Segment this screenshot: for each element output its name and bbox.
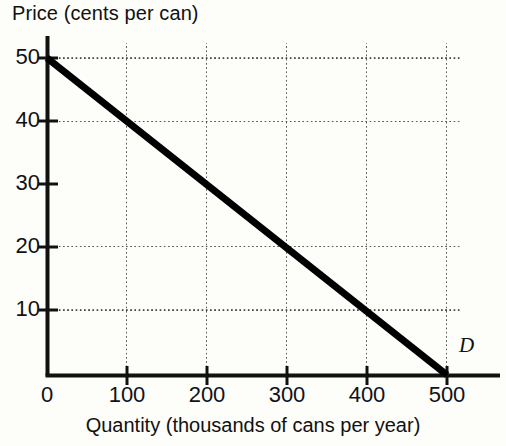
demand-curve-label: D — [459, 333, 474, 358]
xtick-label-100: 100 — [92, 382, 162, 408]
ytick-label-20: 20 — [0, 233, 40, 259]
ytick-label-50: 50 — [0, 44, 40, 70]
ytick-label-10: 10 — [0, 296, 40, 322]
xtick-label-500: 500 — [412, 382, 482, 408]
vertical-gridlines — [126, 43, 448, 375]
xtick-label-300: 300 — [252, 382, 322, 408]
demand-curve — [47, 58, 447, 375]
chart-figure: Price (cents per can) — [0, 0, 506, 446]
x-axis-title: Quantity (thousands of cans per year) — [0, 414, 506, 437]
xtick-label-400: 400 — [332, 382, 402, 408]
xtick-label-200: 200 — [172, 382, 242, 408]
ytick-label-40: 40 — [0, 107, 40, 133]
ytick-label-30: 30 — [0, 170, 40, 196]
plot-area — [0, 0, 506, 446]
horizontal-gridlines — [47, 57, 460, 311]
xtick-label-0: 0 — [12, 382, 82, 408]
